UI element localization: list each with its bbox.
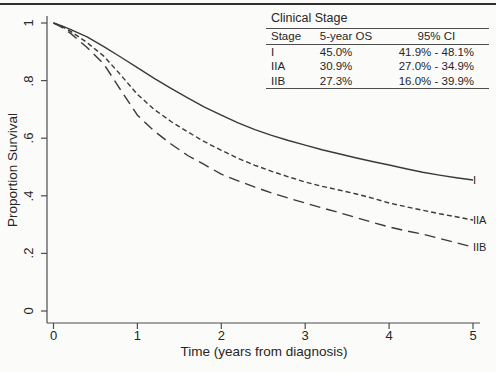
legend-os-value: 30.9% bbox=[320, 59, 384, 74]
curve-label-I: I bbox=[473, 174, 476, 186]
x-tick-label: 0 bbox=[50, 328, 57, 343]
x-axis-title: Time (years from diagnosis) bbox=[181, 344, 348, 359]
legend-table: Clinical Stage Stage 5-year OS 95% CI I … bbox=[266, 9, 489, 89]
legend-row-stage-iia: IIA 30.9% 27.0% - 34.9% bbox=[266, 59, 489, 74]
curve-label-IIB: IIB bbox=[473, 241, 486, 253]
legend-ci-value: 16.0% - 39.9% bbox=[384, 74, 489, 89]
x-tick-label: 2 bbox=[218, 328, 225, 343]
legend-header-stage: Stage bbox=[266, 29, 320, 44]
legend-ci-value: 27.0% - 34.9% bbox=[384, 59, 489, 74]
legend-title: Clinical Stage bbox=[266, 9, 489, 29]
y-tick-label: .2 bbox=[21, 248, 36, 259]
legend-stage-value: IIA bbox=[266, 59, 320, 74]
y-tick-label: 1 bbox=[21, 19, 36, 26]
x-tick-label: 5 bbox=[469, 328, 476, 343]
curve-label-IIA: IIA bbox=[473, 214, 486, 226]
legend-os-value: 45.0% bbox=[320, 44, 384, 59]
legend-header-row: Stage 5-year OS 95% CI bbox=[266, 29, 489, 44]
y-tick-label: .6 bbox=[21, 133, 36, 144]
legend-row-stage-iib: IIB 27.3% 16.0% - 39.9% bbox=[266, 74, 489, 89]
y-tick-label: .4 bbox=[21, 190, 36, 201]
y-tick-label: .8 bbox=[21, 75, 36, 86]
x-tick-label: 3 bbox=[302, 328, 309, 343]
survival-figure: Proportion Survival Time (years from dia… bbox=[0, 0, 496, 372]
y-tick-label: 0 bbox=[21, 307, 36, 314]
legend-stage-value: I bbox=[266, 44, 320, 59]
legend-header-ci: 95% CI bbox=[384, 29, 489, 44]
legend-row-stage-i: I 45.0% 41.9% - 48.1% bbox=[266, 44, 489, 59]
x-tick-label: 1 bbox=[134, 328, 141, 343]
legend-header-os: 5-year OS bbox=[320, 29, 384, 44]
y-axis-title: Proportion Survival bbox=[5, 113, 20, 227]
legend-ci-value: 41.9% - 48.1% bbox=[384, 44, 489, 59]
x-tick-label: 4 bbox=[385, 328, 392, 343]
legend-os-value: 27.3% bbox=[320, 74, 384, 89]
legend-stage-value: IIB bbox=[266, 74, 320, 89]
